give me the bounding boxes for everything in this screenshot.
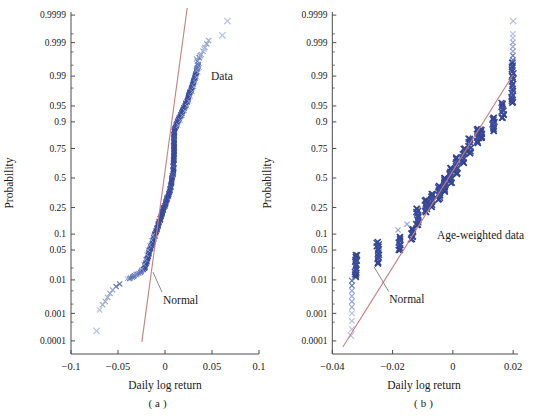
probability-plot-a: −0.1−0.0500.050.10.99990.9990.990.950.90… [3, 8, 266, 410]
y-tick-label: 0.9999 [301, 10, 327, 20]
figure-normal-probability-plots: −0.1−0.0500.050.10.99990.9990.990.950.90… [0, 0, 533, 420]
y-tick-label: 0.95 [49, 101, 66, 111]
tail-x-marker [110, 287, 115, 292]
tail-x-marker [510, 31, 515, 36]
y-tick-label: 0.05 [49, 245, 66, 255]
x-tick-label: 0.1 [252, 361, 265, 372]
y-tick-label: 0.999 [306, 38, 328, 48]
plot-b-xlabel: Daily log return [387, 379, 461, 392]
data-scatter-band [125, 62, 202, 281]
x-tick-label: 0.05 [203, 361, 221, 372]
stray-x-marker [404, 222, 409, 227]
y-tick-label: 0.25 [49, 203, 66, 213]
outlier-x-marker [224, 18, 230, 24]
stray-x-marker [395, 227, 400, 232]
y-tick-label: 0.001 [306, 309, 328, 319]
y-tick-label: 0.75 [311, 144, 328, 154]
y-tick-label: 0.9 [54, 117, 66, 127]
y-tick-label: 0.05 [311, 245, 328, 255]
tail-x-marker [349, 278, 354, 283]
y-tick-label: 0.1 [54, 229, 66, 239]
axis-spines [332, 12, 518, 354]
y-tick-label: 0.999 [45, 38, 67, 48]
age-weighted-tail-markers [348, 18, 517, 339]
plot-b-ylabel: Probability [261, 157, 274, 208]
plot-b-series [343, 18, 517, 347]
plot-a-annotations: DataNormal [153, 70, 233, 306]
x-tick-label: −0.1 [61, 361, 80, 372]
tail-x-marker [349, 288, 354, 293]
y-tick-label: 0.9 [316, 117, 328, 127]
outlier-x-marker [510, 18, 516, 24]
y-tick-label: 0.1 [316, 229, 328, 239]
tail-x-marker [100, 302, 105, 307]
plot-b-caption: (b) [414, 397, 436, 410]
tail-x-marker [349, 304, 354, 309]
x-tick-label: 0 [450, 361, 455, 372]
annotation-normal-label: Normal [163, 294, 198, 306]
plot-a-axes: −0.1−0.0500.050.10.99990.9990.990.950.90… [40, 10, 266, 371]
tail-x-marker [349, 311, 354, 316]
plot-a-xlabel: Daily log return [128, 379, 202, 392]
annotation-pointer-line [153, 272, 162, 292]
annotation-data-label: Data [211, 70, 233, 82]
tail-x-marker [349, 283, 354, 288]
tail-x-marker [97, 307, 102, 312]
y-tick-label: 0.95 [311, 101, 328, 111]
x-tick-label: −0.04 [320, 361, 345, 372]
tail-x-marker [349, 299, 354, 304]
charts-canvas: −0.1−0.0500.050.10.99990.9990.990.950.90… [0, 0, 533, 420]
x-tick-label: −0.02 [380, 361, 404, 372]
y-tick-label: 0.0001 [40, 336, 66, 346]
y-tick-label: 0.0001 [301, 336, 327, 346]
y-tick-label: 0.99 [49, 71, 66, 81]
plot-a-ylabel: Probability [3, 157, 16, 208]
x-tick-label: 0.02 [504, 361, 522, 372]
tail-x-marker [349, 318, 354, 323]
y-tick-label: 0.9999 [40, 10, 66, 20]
plot-a-caption: (a) [148, 397, 169, 410]
y-tick-label: 0.99 [311, 71, 328, 81]
annotation-age-weighted-data-label: Age-weighted data [437, 229, 524, 242]
y-tick-label: 0.5 [54, 173, 66, 183]
data-tail-markers [93, 18, 230, 334]
probability-plot-b: −0.04−0.0200.020.99990.9990.990.950.90.7… [261, 10, 524, 410]
annotation-pointer-line [374, 267, 389, 292]
x-tick-label: −0.05 [106, 361, 130, 372]
outlier-x-marker [219, 32, 225, 38]
y-tick-label: 0.01 [49, 275, 66, 285]
y-tick-label: 0.25 [311, 203, 328, 213]
y-tick-label: 0.01 [311, 275, 328, 285]
x-tick-label: 0 [162, 361, 167, 372]
tail-x-marker [117, 281, 122, 286]
normal-fit-line [343, 75, 513, 347]
tail-x-marker [349, 293, 354, 298]
normal-fit-line [142, 8, 187, 342]
y-tick-label: 0.001 [45, 309, 67, 319]
outlier-x-marker [93, 328, 99, 334]
plot-b-axes: −0.04−0.0200.020.99990.9990.990.950.90.7… [301, 10, 522, 371]
age-weighted-scatter-clusters [352, 60, 517, 280]
y-tick-label: 0.75 [49, 144, 66, 154]
annotation-normal-label: Normal [389, 293, 424, 305]
y-tick-label: 0.5 [316, 173, 328, 183]
